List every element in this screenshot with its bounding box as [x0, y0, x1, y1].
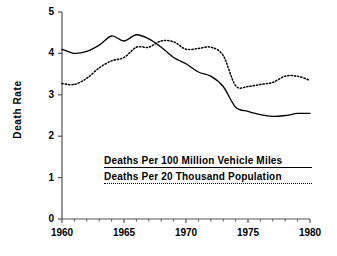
data-series-group [62, 35, 310, 117]
axes [62, 12, 310, 219]
y-axis-tick-label: 1 [40, 172, 54, 183]
y-axis-tick-label: 0 [40, 213, 54, 224]
x-axis-tick-label: 1960 [42, 227, 82, 238]
x-axis-tick-label: 1980 [290, 227, 330, 238]
legend-entry-label: Deaths Per 20 Thousand Population [104, 171, 282, 182]
series-line-vehicle-miles [62, 35, 310, 117]
death-rate-line-chart: Death Rate 012345 19601965197019751980 D… [0, 0, 337, 256]
x-axis-tick-label: 1970 [166, 227, 206, 238]
y-axis-tick-label: 3 [40, 89, 54, 100]
legend-entry-label: Deaths Per 100 Million Vehicle Miles [104, 155, 282, 166]
x-axis-tick-label: 1975 [228, 227, 268, 238]
legend-entry-population: Deaths Per 20 Thousand Population [104, 171, 312, 184]
chart-legend: Deaths Per 100 Million Vehicle Miles Dea… [104, 155, 312, 187]
y-axis-tick-label: 4 [40, 47, 54, 58]
y-axis-tick-label: 2 [40, 130, 54, 141]
legend-entry-vehicle-miles: Deaths Per 100 Million Vehicle Miles [104, 155, 312, 168]
y-axis-tick-label: 5 [40, 6, 54, 17]
x-axis-tick-label: 1965 [104, 227, 144, 238]
